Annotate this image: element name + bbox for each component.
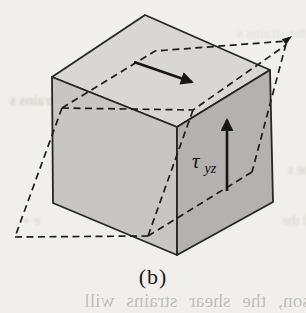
deformed-corner-arrowhead — [282, 36, 292, 45]
shear-strain-figure: the strains s strains s he s d the e + s… — [0, 0, 306, 313]
figure-caption: (b) — [0, 264, 306, 290]
